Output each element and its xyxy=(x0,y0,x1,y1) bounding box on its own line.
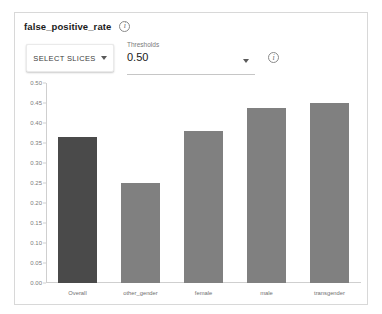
thresholds-info-icon[interactable]: i xyxy=(268,52,279,63)
card-header: false_positive_rate i xyxy=(15,13,367,39)
x-axis-tick-label: female xyxy=(172,290,235,296)
bar[interactable] xyxy=(121,183,159,283)
x-axis-tick-label: transgender xyxy=(298,290,361,296)
thresholds-select[interactable]: Thresholds 0.50 xyxy=(127,41,255,75)
thresholds-value: 0.50 xyxy=(127,51,148,63)
x-axis-tick-label: male xyxy=(235,290,298,296)
bar-slot xyxy=(235,83,298,283)
x-axis-tick-label: other_gender xyxy=(109,290,172,296)
bar-slot xyxy=(46,83,109,283)
x-axis-labels: Overallother_genderfemalemaletransgender xyxy=(46,286,361,300)
chevron-down-icon xyxy=(243,59,249,63)
chart-controls: SELECT SLICES Thresholds 0.50 i xyxy=(15,39,367,81)
thresholds-label: Thresholds xyxy=(127,41,159,48)
bar[interactable] xyxy=(184,131,222,283)
thresholds-underline xyxy=(127,74,255,75)
bar-series xyxy=(46,83,361,283)
info-icon[interactable]: i xyxy=(119,21,130,32)
select-slices-button[interactable]: SELECT SLICES xyxy=(26,44,114,72)
bar-chart: 0.500.450.400.350.300.250.200.150.100.05… xyxy=(15,81,367,306)
plot-area: 0.500.450.400.350.300.250.200.150.100.05… xyxy=(46,83,361,283)
select-slices-label: SELECT SLICES xyxy=(33,54,95,63)
chevron-down-icon xyxy=(101,56,107,60)
bar-slot xyxy=(109,83,172,283)
page-title: false_positive_rate xyxy=(24,21,111,32)
bar[interactable] xyxy=(310,103,348,283)
metric-card: false_positive_rate i SELECT SLICES Thre… xyxy=(14,12,368,305)
bar[interactable] xyxy=(58,137,96,283)
bar-slot xyxy=(298,83,361,283)
x-axis-tick-label: Overall xyxy=(46,290,109,296)
bar-slot xyxy=(172,83,235,283)
bar[interactable] xyxy=(247,108,285,283)
